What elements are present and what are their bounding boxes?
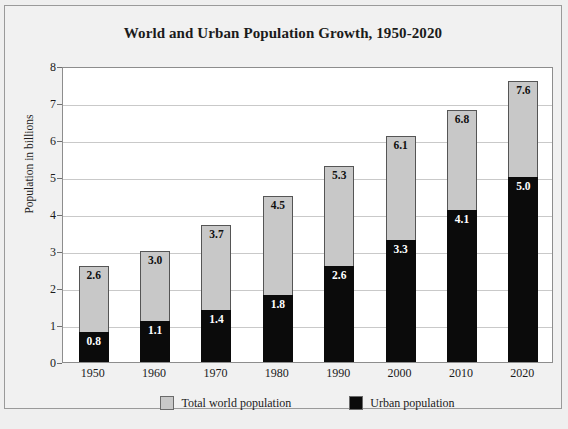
gridline	[63, 179, 552, 180]
bar-value-label-urban: 5.0	[509, 180, 537, 193]
y-axis-tick-label: 1	[26, 319, 56, 334]
y-axis-tick-label: 2	[26, 282, 56, 297]
y-axis-tick-labels: 012345678	[23, 67, 56, 363]
x-axis-tick-label: 1980	[265, 366, 289, 381]
bar-value-label-urban: 1.1	[141, 324, 169, 337]
x-axis-tick-label: 2010	[449, 366, 473, 381]
bar-group[interactable]: 6.84.1	[447, 66, 477, 362]
bar-group[interactable]: 2.60.8	[79, 66, 109, 362]
gridline	[63, 105, 552, 106]
chart-title: World and Urban Population Growth, 1950-…	[5, 25, 561, 42]
y-axis-tick-label: 3	[26, 245, 56, 260]
bar-value-label-urban: 3.3	[387, 243, 415, 256]
x-axis-tick-label: 1960	[142, 366, 166, 381]
bar-value-label-total: 2.6	[80, 269, 108, 282]
y-axis-tick-label: 4	[26, 208, 56, 223]
y-axis-tick-mark	[57, 363, 62, 364]
bar-group[interactable]: 6.13.3	[386, 66, 416, 362]
legend-label: Total world population	[181, 396, 291, 411]
x-axis-tick-label: 2000	[388, 366, 412, 381]
gridline	[63, 142, 552, 143]
bar-value-label-urban: 4.1	[448, 213, 476, 226]
x-axis-tick-label: 1970	[203, 366, 227, 381]
bar-value-label-total: 6.1	[387, 139, 415, 152]
bar-value-label-total: 7.6	[509, 84, 537, 97]
gridline	[63, 216, 552, 217]
legend-swatch-icon	[349, 396, 363, 410]
bar-value-label-total: 3.0	[141, 254, 169, 267]
bar-group[interactable]: 4.51.8	[263, 66, 293, 362]
bar-urban-population[interactable]: 4.1	[447, 210, 477, 362]
bar-group[interactable]: 3.01.1	[140, 66, 170, 362]
gridline	[63, 327, 552, 328]
x-axis-tick-label: 2020	[510, 366, 534, 381]
legend-label: Urban population	[370, 396, 454, 411]
x-axis-tick-label: 1990	[326, 366, 350, 381]
bar-urban-population[interactable]: 5.0	[508, 177, 538, 362]
bar-urban-population[interactable]: 1.8	[263, 295, 293, 362]
bar-urban-population[interactable]: 0.8	[79, 332, 109, 362]
gridline	[63, 290, 552, 291]
bar-group[interactable]: 7.65.0	[508, 66, 538, 362]
plot-area: 2.60.83.01.13.71.44.51.85.32.66.13.36.84…	[62, 67, 553, 363]
y-axis-tick-label: 5	[26, 171, 56, 186]
legend-item[interactable]: Total world population	[160, 396, 291, 411]
gridline	[63, 253, 552, 254]
y-axis-tick-label: 8	[26, 60, 56, 75]
x-axis-tick-label: 1950	[81, 366, 105, 381]
bar-group[interactable]: 5.32.6	[324, 66, 354, 362]
y-axis-tick-label: 0	[26, 356, 56, 371]
y-axis-tick-label: 6	[26, 134, 56, 149]
bar-value-label-urban: 2.6	[325, 269, 353, 282]
bar-value-label-urban: 0.8	[80, 335, 108, 348]
bar-urban-population[interactable]: 3.3	[386, 240, 416, 362]
bar-value-label-total: 4.5	[264, 199, 292, 212]
bar-group[interactable]: 3.71.4	[201, 66, 231, 362]
bar-value-label-total: 3.7	[202, 228, 230, 241]
bar-value-label-total: 6.8	[448, 113, 476, 126]
y-axis-tick-label: 7	[26, 97, 56, 112]
bar-value-label-urban: 1.4	[202, 313, 230, 326]
bar-urban-population[interactable]: 1.1	[140, 321, 170, 362]
legend-swatch-icon	[160, 396, 174, 410]
bar-value-label-total: 5.3	[325, 169, 353, 182]
x-axis-tick-labels: 19501960197019801990200020102020	[62, 366, 553, 384]
bar-urban-population[interactable]: 2.6	[324, 266, 354, 362]
figure-frame: World and Urban Population Growth, 1950-…	[4, 5, 562, 409]
bar-urban-population[interactable]: 1.4	[201, 310, 231, 362]
bar-value-label-urban: 1.8	[264, 298, 292, 311]
caption-strip	[4, 420, 564, 429]
legend-item[interactable]: Urban population	[349, 396, 454, 411]
chart-legend: Total world populationUrban population	[62, 392, 553, 414]
